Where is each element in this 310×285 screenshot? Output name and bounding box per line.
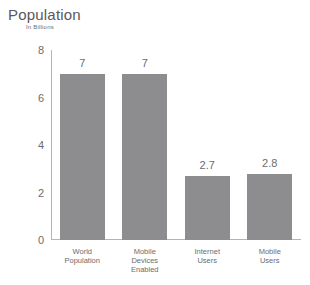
y-axis-tick-label: 6	[38, 92, 44, 103]
chart-title: Population	[8, 6, 81, 23]
bar[interactable]	[185, 176, 230, 240]
y-axis-tick-label: 4	[38, 140, 44, 151]
y-axis-tick-label: 0	[38, 235, 44, 246]
bar-series: 7WorldPopulation7MobileDevicesEnabled2.7…	[51, 50, 301, 240]
plot-area: 02468 7WorldPopulation7MobileDevicesEnab…	[51, 50, 301, 240]
x-axis-category-line: Mobile	[233, 247, 306, 256]
x-axis-category-label: MobileUsers	[233, 247, 306, 265]
chart-subtitle: In Billions	[26, 24, 81, 30]
bar[interactable]	[60, 74, 105, 240]
y-axis-tick-label: 8	[38, 45, 44, 56]
chart-title-block: Population In Billions	[8, 6, 81, 30]
bar-group[interactable]: 2.8MobileUsers	[247, 50, 292, 240]
x-axis-category-line: Users	[233, 256, 306, 265]
population-bar-chart: Population In Billions 02468 7WorldPopul…	[0, 0, 310, 285]
bar-value-label: 7	[122, 58, 167, 69]
x-axis-category-line: Enabled	[108, 265, 181, 274]
bar-value-label: 2.7	[185, 160, 230, 171]
bar-value-label: 7	[60, 58, 105, 69]
y-axis-tick-label: 2	[38, 187, 44, 198]
bar[interactable]	[122, 74, 167, 240]
bar-group[interactable]: 7WorldPopulation	[60, 50, 105, 240]
bar-group[interactable]: 2.7InternetUsers	[185, 50, 230, 240]
bar[interactable]	[247, 174, 292, 241]
bar-group[interactable]: 7MobileDevicesEnabled	[122, 50, 167, 240]
bar-value-label: 2.8	[247, 158, 292, 169]
